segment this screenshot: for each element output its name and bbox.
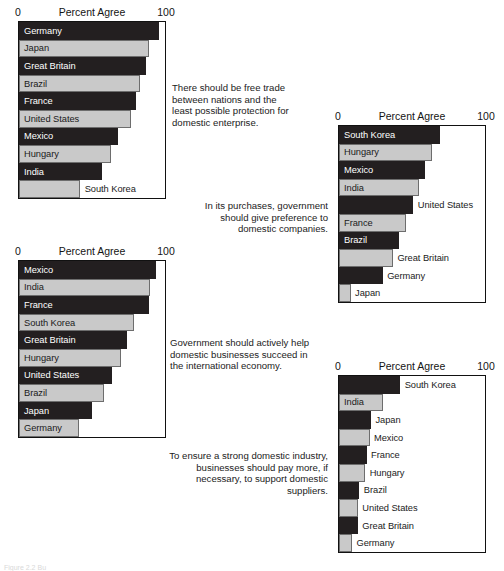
bar-row: India xyxy=(19,163,165,181)
bar-label: India xyxy=(24,282,44,292)
bar-row: Mexico xyxy=(339,161,485,179)
bar-label: Great Britain xyxy=(24,335,76,345)
bar-row: France xyxy=(339,214,485,232)
plot-area: South KoreaHungaryMexicoIndiaUnited Stat… xyxy=(338,125,486,303)
bar-label: France xyxy=(344,218,373,228)
plot-area: South KoreaIndiaJapanMexicoFranceHungary… xyxy=(338,375,486,553)
bar-row: Germany xyxy=(19,22,165,40)
bar-row: South Korea xyxy=(19,180,165,198)
bar-label: Japan xyxy=(355,288,380,298)
bar-brazil xyxy=(339,482,359,500)
bar-label: Germany xyxy=(24,423,62,433)
bar-row: United States xyxy=(19,110,165,128)
chart-panel-government-preference: 0 Percent Agree 100 South KoreaHungaryMe… xyxy=(338,110,486,303)
bar-row: Brazil xyxy=(339,232,485,250)
bar-label: France xyxy=(371,450,400,460)
bar-label: Germany xyxy=(387,271,425,281)
bar-row: Germany xyxy=(339,534,485,552)
axis-tick-max: 100 xyxy=(477,110,495,122)
bar-row: Japan xyxy=(19,40,165,58)
bar-label: Japan xyxy=(24,406,49,416)
bar-japan xyxy=(339,284,351,302)
bar-label: Hungary xyxy=(370,468,405,478)
bar-row: United States xyxy=(339,196,485,214)
bar-label: India xyxy=(24,167,44,177)
bar-label: South Korea xyxy=(85,184,136,194)
bar-united-states xyxy=(339,196,413,214)
bar-label: Brazil xyxy=(344,235,367,245)
axis-title: Percent Agree xyxy=(18,6,166,18)
bar-row: India xyxy=(339,394,485,412)
bar-label: Brazil xyxy=(24,388,47,398)
bar-row: Great Britain xyxy=(19,331,165,349)
bar-united-states xyxy=(339,499,358,517)
axis-tick-max: 100 xyxy=(157,6,175,18)
bar-row: India xyxy=(339,179,485,197)
bar-label: Germany xyxy=(24,26,62,36)
bar-row: South Korea xyxy=(19,314,165,332)
bar-label: South Korea xyxy=(405,380,456,390)
bar-row: Brazil xyxy=(339,482,485,500)
bar-row: South Korea xyxy=(339,126,485,144)
bar-row: United States xyxy=(339,499,485,517)
bar-label: Hungary xyxy=(344,147,379,157)
bar-mexico xyxy=(339,429,370,447)
bar-row: Great Britain xyxy=(339,249,485,267)
bar-label: Great Britain xyxy=(397,253,449,263)
bar-label: Great Britain xyxy=(362,521,414,531)
bar-label: Mexico xyxy=(24,131,53,141)
bar-germany xyxy=(339,534,352,552)
axis-title: Percent Agree xyxy=(338,360,486,372)
plot-area: GermanyJapanGreat BritainBrazilFranceUni… xyxy=(18,21,166,199)
figure-caption: Figure 2.2 Bu xyxy=(4,564,46,571)
bar-row: Hungary xyxy=(19,145,165,163)
bar-row: Great Britain xyxy=(339,517,485,535)
plot-area: MexicoIndiaFranceSouth KoreaGreat Britai… xyxy=(18,260,166,438)
bar-label: Japan xyxy=(24,43,49,53)
bar-row: South Korea xyxy=(339,376,485,394)
bar-row: Mexico xyxy=(339,429,485,447)
bar-label: Hungary xyxy=(24,149,59,159)
bar-row: Germany xyxy=(19,419,165,437)
bar-label: Japan xyxy=(376,415,401,425)
bar-label: Brazil xyxy=(364,485,387,495)
bar-row: Japan xyxy=(19,402,165,420)
bar-row: Mexico xyxy=(19,261,165,279)
bar-label: South Korea xyxy=(344,130,395,140)
bar-row: France xyxy=(339,446,485,464)
bar-label: United States xyxy=(418,200,473,210)
bar-label: Great Britain xyxy=(24,61,76,71)
bar-label: France xyxy=(24,300,53,310)
caption-government-preference: In its purchases, government should give… xyxy=(180,200,328,235)
bar-row: Japan xyxy=(339,411,485,429)
chart-panel-government-help: 0 Percent Agree 100 MexicoIndiaFranceSou… xyxy=(18,245,166,438)
bar-label: India xyxy=(344,397,364,407)
bar-great-britain xyxy=(339,249,393,267)
bar-label: France xyxy=(24,96,53,106)
caption-free-trade: There should be free trade between natio… xyxy=(172,82,296,128)
bar-row: Brazil xyxy=(19,384,165,402)
bar-row: Hungary xyxy=(339,464,485,482)
chart-axis-header: 0 Percent Agree 100 xyxy=(18,245,166,260)
caption-government-help: Government should actively help domestic… xyxy=(170,337,310,372)
bar-hungary xyxy=(339,464,365,482)
bar-row: Mexico xyxy=(19,128,165,146)
axis-title: Percent Agree xyxy=(18,245,166,257)
bar-row: Japan xyxy=(339,284,485,302)
chart-axis-header: 0 Percent Agree 100 xyxy=(18,6,166,21)
bar-row: France xyxy=(19,92,165,110)
bar-south-korea xyxy=(339,376,400,394)
chart-panel-free-trade: 0 Percent Agree 100 GermanyJapanGreat Br… xyxy=(18,6,166,199)
bar-row: Brazil xyxy=(19,75,165,93)
bar-label: Mexico xyxy=(24,265,53,275)
bar-row: Hungary xyxy=(19,349,165,367)
chart-axis-header: 0 Percent Agree 100 xyxy=(338,110,486,125)
bar-row: United States xyxy=(19,367,165,385)
bar-row: Hungary xyxy=(339,144,485,162)
caption-pay-more-domestic: To ensure a strong domestic industry, bu… xyxy=(166,450,328,496)
bar-germany xyxy=(339,267,383,285)
chart-panel-pay-more-domestic: 0 Percent Agree 100 South KoreaIndiaJapa… xyxy=(338,360,486,553)
chart-axis-header: 0 Percent Agree 100 xyxy=(338,360,486,375)
bar-france xyxy=(339,446,367,464)
bar-label: Brazil xyxy=(24,79,47,89)
